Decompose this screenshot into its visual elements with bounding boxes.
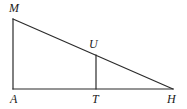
vertex-label-U: U bbox=[89, 38, 98, 50]
vertex-label-H: H bbox=[167, 93, 176, 105]
geometry-figure: M U A T H bbox=[0, 0, 187, 109]
vertex-label-M: M bbox=[9, 2, 19, 14]
vertex-label-T: T bbox=[92, 93, 99, 105]
segment-MH bbox=[13, 19, 173, 89]
vertex-label-A: A bbox=[10, 93, 17, 105]
